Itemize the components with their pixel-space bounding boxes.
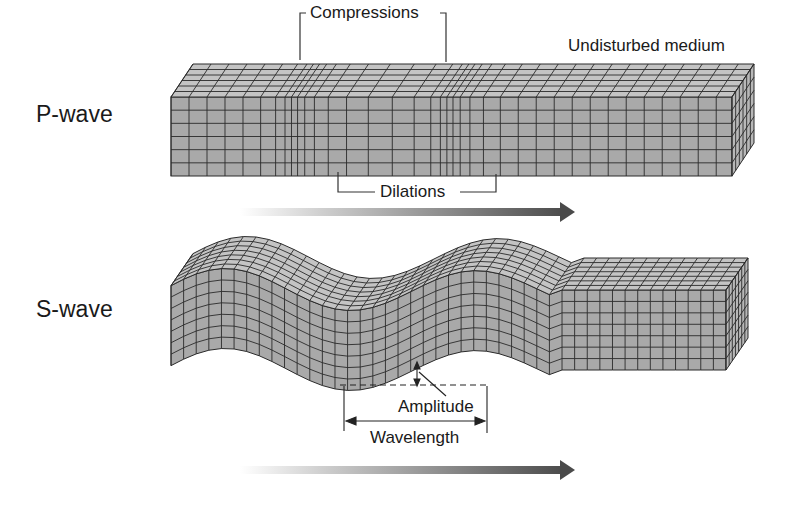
s-wave-direction-arrow [240,460,575,480]
p-wave-label: P-wave [36,101,113,128]
s-wave-block [171,237,748,391]
compressions-label: Compressions [310,3,419,23]
s-wave-label: S-wave [36,296,113,323]
dilations-label: Dilations [380,182,445,202]
p-wave-direction-arrow [240,202,575,222]
undisturbed-medium-label: Undisturbed medium [568,36,725,56]
amplitude-label: Amplitude [398,397,474,417]
p-wave-block [171,64,754,176]
wavelength-label: Wavelength [370,428,459,448]
